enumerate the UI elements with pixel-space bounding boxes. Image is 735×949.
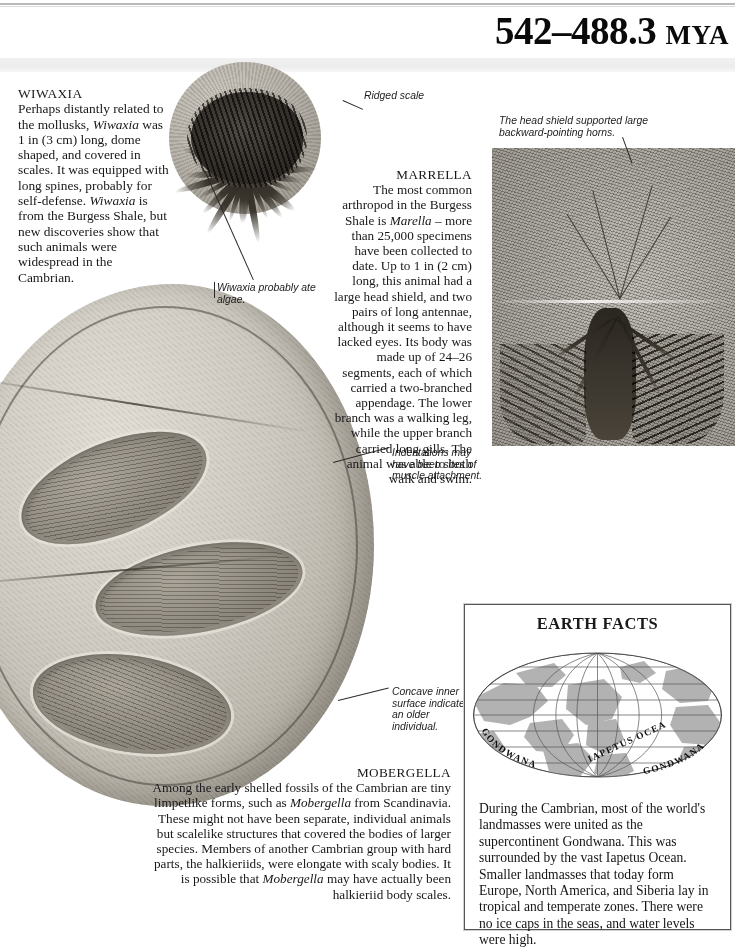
marrella-fossil-photo [492,148,735,446]
top-rule [0,3,735,5]
leader-line-ridged-scale [343,100,364,110]
marrella-gills-left [500,344,586,444]
earth-facts-world-map: GONDWANA GONDWANA IAPETUS OCEAN [470,639,725,791]
marrella-text-block: MARRELLAThe most common arthropod in the… [332,167,472,486]
wiwaxia-body [191,92,303,184]
mobergella-heading: MOBERGELLA [146,765,451,780]
marrella-light-streak [492,300,735,303]
mobergella-body: Among the early shelled fossils of the C… [153,780,451,901]
marrella-body: The most common arthropod in the Burgess… [334,182,472,486]
top-rule-second [0,6,735,7]
leader-tick-algae [214,282,215,298]
marrella-gills-right [632,334,724,444]
wiwaxia-fossil-photo [155,48,337,288]
annotation-wiwaxia-algae: Wiwaxia probably ate algae. [217,282,329,305]
header-band [0,58,735,72]
annotation-ridged-scale: Ridged scale [364,90,484,102]
earth-facts-panel: EARTH FACTS [464,604,731,930]
landmasses-group [470,653,725,783]
page-title: 542–488.3 MYA [495,8,729,53]
wiwaxia-body: Perhaps distantly related to the mollusk… [18,101,169,284]
era-unit-label: MYA [665,20,729,50]
mobergella-text-block: MOBERGELLAAmong the early shelled fossil… [146,765,451,902]
earth-facts-body: During the Cambrian, most of the world's… [465,791,730,949]
mobergella-fossil-photo [0,284,374,814]
annotation-indentations: Indentations may have been sites of musc… [392,447,496,482]
world-map-svg: GONDWANA GONDWANA IAPETUS OCEAN [470,639,725,791]
annotation-head-shield: The head shield supported large backward… [499,115,689,138]
wiwaxia-heading: WIWAXIA [18,86,170,101]
wiwaxia-text-block: WIWAXIAPerhaps distantly related to the … [18,86,170,285]
marrella-heading: MARRELLA [332,167,472,182]
era-range-value: 542–488.3 [495,9,656,52]
earth-facts-title: EARTH FACTS [465,614,730,634]
